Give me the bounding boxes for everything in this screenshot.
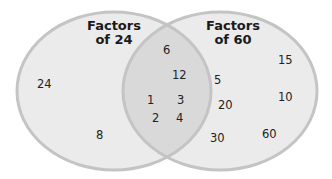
left-title-line1: Factors xyxy=(66,19,162,33)
intersection-value: 3 xyxy=(177,94,184,106)
right-value: 20 xyxy=(218,99,233,111)
right-value: 30 xyxy=(210,132,225,144)
left-set-title: Factors of 24 xyxy=(66,19,162,47)
right-value: 5 xyxy=(214,74,221,86)
right-title-line1: Factors xyxy=(190,19,276,33)
left-value: 24 xyxy=(37,78,52,90)
left-value: 8 xyxy=(96,129,103,141)
intersection-value: 4 xyxy=(176,112,183,124)
intersection-value: 6 xyxy=(163,44,170,56)
intersection-value: 1 xyxy=(147,94,154,106)
right-value: 10 xyxy=(278,91,293,103)
right-value: 15 xyxy=(278,54,293,66)
intersection-value: 2 xyxy=(152,112,159,124)
right-value: 60 xyxy=(262,128,277,140)
right-title-line2: of 60 xyxy=(190,33,276,47)
right-set-title: Factors of 60 xyxy=(190,19,276,47)
intersection-value: 12 xyxy=(172,69,187,81)
left-title-line2: of 24 xyxy=(66,33,162,47)
